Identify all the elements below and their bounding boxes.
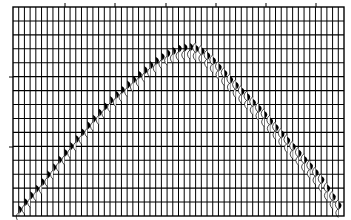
negative-lobe (33, 192, 36, 201)
negative-lobe (79, 135, 82, 144)
negative-lobe (176, 52, 179, 61)
negative-lobe (142, 73, 145, 82)
negative-lobe (239, 94, 242, 103)
negative-lobe (187, 50, 190, 59)
negative-lobe (90, 122, 93, 131)
negative-lobe (102, 109, 105, 118)
negative-lobe (68, 149, 71, 158)
negative-lobe (96, 116, 99, 125)
negative-lobe (50, 170, 53, 179)
negative-lobe (256, 111, 259, 120)
negative-lobe (147, 68, 150, 77)
negative-lobe (182, 51, 185, 60)
negative-lobe (233, 89, 236, 98)
negative-lobe (39, 185, 42, 194)
negative-lobe (244, 100, 247, 109)
negative-lobe (22, 205, 25, 214)
negative-lobe (45, 178, 48, 187)
negative-lobe (153, 64, 156, 73)
negative-lobe (210, 64, 213, 73)
negative-lobe (216, 70, 219, 79)
negative-lobe (296, 156, 299, 165)
negative-lobe (136, 78, 139, 87)
negative-lobe (159, 60, 162, 69)
negative-lobe (119, 93, 122, 102)
negative-lobe (313, 176, 316, 185)
negative-lobe (307, 169, 310, 178)
negative-lobe (85, 128, 88, 137)
negative-lobe (319, 183, 322, 192)
negative-lobe (170, 54, 173, 63)
negative-lobe (279, 137, 282, 146)
negative-lobe (284, 143, 287, 152)
negative-lobe (199, 54, 202, 63)
negative-lobe (302, 163, 305, 172)
negative-lobe (324, 191, 327, 200)
negative-lobe (193, 52, 196, 61)
negative-lobe (56, 163, 59, 172)
negative-lobe (267, 124, 270, 133)
negative-lobe (250, 106, 253, 115)
negative-lobe (330, 200, 333, 209)
trace-lines (19, 7, 339, 216)
negative-lobe (73, 142, 76, 151)
negative-lobe (28, 198, 31, 207)
negative-lobe (222, 77, 225, 86)
negative-lobe (125, 88, 128, 97)
negative-lobe (113, 98, 116, 107)
negative-lobe (290, 150, 293, 159)
negative-lobe (165, 56, 168, 65)
negative-lobe (205, 59, 208, 68)
seismic-wiggle-plot (0, 0, 351, 220)
negative-lobe (62, 156, 65, 165)
